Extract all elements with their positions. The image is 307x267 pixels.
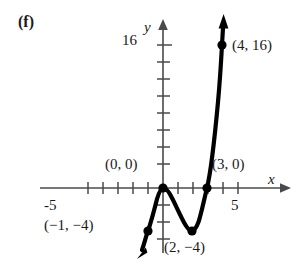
y-tick-label-16: 16 <box>122 33 137 48</box>
point-marker-neg1-neg4 <box>143 226 152 235</box>
point-marker-0-0 <box>158 183 167 192</box>
cubic-curve <box>142 23 223 250</box>
point-label-neg1-neg4: (−1, −4) <box>44 218 93 233</box>
x-tick-label-5: 5 <box>231 198 239 213</box>
x-tick-label-neg5: -5 <box>44 198 57 213</box>
figure-container: (f) y x 16 -5 5 (0, 0) (4, 16) (3, 0) (−… <box>0 0 307 267</box>
point-marker-2-neg4 <box>187 226 196 235</box>
x-axis-arrowhead <box>280 183 291 193</box>
point-label-4-16: (4, 16) <box>232 38 272 53</box>
y-axis-arrowhead <box>158 19 168 30</box>
y-axis-label: y <box>144 20 151 35</box>
y-axis-ticks <box>157 45 172 239</box>
curve-arrowhead-up <box>219 14 229 29</box>
point-label-0-0: (0, 0) <box>105 157 138 172</box>
point-label-3-0: (3, 0) <box>212 157 245 172</box>
x-axis-label: x <box>268 172 275 187</box>
point-label-2-neg4: (2, −4) <box>164 240 205 255</box>
part-label: (f) <box>18 14 34 30</box>
point-marker-3-0 <box>202 183 211 192</box>
point-marker-4-16 <box>217 40 226 49</box>
